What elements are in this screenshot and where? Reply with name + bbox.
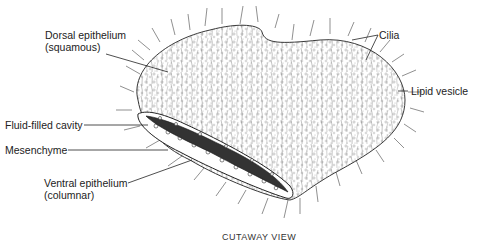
label-ventral-line2: (columnar)	[44, 189, 127, 201]
label-lipid-vesicle: Lipid vesicle	[411, 85, 468, 97]
label-fluid-filled-cavity: Fluid-filled cavity	[5, 119, 83, 131]
label-cilia: Cilia	[379, 29, 399, 41]
caption-cutaway-view: CUTAWAY VIEW	[222, 232, 296, 241]
label-dorsal-line1: Dorsal epithelium	[45, 29, 126, 41]
label-dorsal-epithelium: Dorsal epithelium (squamous)	[45, 29, 126, 53]
label-ventral-line1: Ventral epithelium	[44, 177, 127, 189]
label-mesenchyme: Mesenchyme	[5, 144, 67, 156]
label-ventral-epithelium: Ventral epithelium (columnar)	[44, 177, 127, 201]
label-dorsal-line2: (squamous)	[45, 41, 126, 53]
